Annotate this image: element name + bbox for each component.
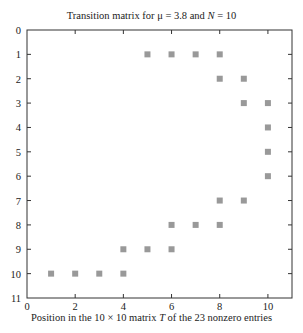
data-point-marker	[265, 124, 271, 130]
data-point-marker	[169, 246, 175, 252]
data-point-marker	[120, 246, 126, 252]
data-point-marker	[193, 51, 199, 57]
x-tick-label: 8	[217, 301, 222, 312]
data-point-marker	[241, 100, 247, 106]
x-tick-label: 10	[263, 301, 274, 312]
data-point-marker	[217, 76, 223, 82]
data-point-marker	[72, 271, 78, 277]
data-point-marker	[144, 246, 150, 252]
y-axis: 01234567891011	[11, 25, 293, 304]
data-point-marker	[265, 100, 271, 106]
data-point-marker	[169, 51, 175, 57]
data-point-marker	[265, 173, 271, 179]
x-tick-label: 6	[169, 301, 174, 312]
x-tick-label: 4	[121, 301, 127, 312]
data-point-marker	[96, 271, 102, 277]
plot-frame	[27, 30, 292, 298]
x-axis-label: Position in the 10 × 10 matrix T of the …	[0, 312, 303, 323]
data-point-marker	[169, 222, 175, 228]
data-point-marker	[144, 51, 150, 57]
x-tick-label: 2	[73, 301, 78, 312]
x-tick-label: 0	[24, 301, 29, 312]
data-point-marker	[217, 51, 223, 57]
y-tick-label: 10	[11, 269, 22, 280]
y-tick-label: 4	[16, 122, 22, 133]
y-tick-label: 8	[16, 220, 21, 231]
data-point-marker	[241, 76, 247, 82]
y-tick-label: 0	[16, 25, 21, 36]
data-point-marker	[217, 222, 223, 228]
data-point-marker	[241, 198, 247, 204]
y-tick-label: 2	[16, 74, 21, 85]
y-tick-label: 9	[16, 244, 21, 255]
data-point-marker	[120, 271, 126, 277]
y-tick-label: 11	[11, 293, 21, 304]
y-tick-label: 6	[16, 171, 21, 182]
y-tick-label: 3	[16, 98, 21, 109]
data-point-marker	[48, 271, 54, 277]
x-axis: 0246810	[24, 30, 273, 312]
data-points	[48, 51, 271, 276]
y-tick-label: 5	[16, 147, 21, 158]
data-point-marker	[193, 222, 199, 228]
y-tick-label: 1	[16, 49, 21, 60]
data-point-marker	[217, 198, 223, 204]
data-point-marker	[265, 149, 271, 155]
y-tick-label: 7	[16, 196, 21, 207]
scatter-plot: 0246810 01234567891011	[0, 0, 303, 333]
